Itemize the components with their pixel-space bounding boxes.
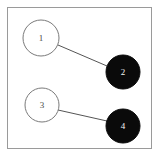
- node-4-label: 4: [121, 121, 126, 131]
- edge-3-to-4: [58, 110, 107, 121]
- node-2[interactable]: 2: [106, 55, 140, 89]
- node-2-label: 2: [121, 67, 126, 77]
- node-layer: 1 2 3 4: [23, 20, 140, 143]
- figure-root: 1 2 3 4: [0, 0, 166, 159]
- edge-1-to-2: [58, 45, 107, 66]
- edge-layer: [58, 45, 107, 121]
- node-1[interactable]: 1: [23, 20, 59, 56]
- node-4[interactable]: 4: [106, 109, 140, 143]
- node-3[interactable]: 3: [25, 88, 59, 122]
- node-3-label: 3: [40, 100, 45, 110]
- graph-canvas: 1 2 3 4: [0, 0, 166, 159]
- node-1-label: 1: [39, 33, 44, 43]
